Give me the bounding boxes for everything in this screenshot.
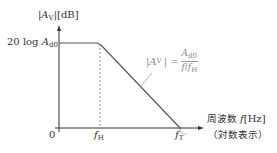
denominator-sub: H [191,66,197,74]
y-axis-label: |AV|[dB] [38,10,79,22]
numerator-sub: d0 [188,52,197,60]
x-title-jp: 周波数 [207,113,240,124]
level-label-prefix: 20 log [7,36,42,47]
level-label-sub: d0 [49,41,58,49]
y-label-abs: |A [38,9,49,20]
x-axis-title: 周波数 f[Hz] [207,114,266,124]
tick-ft-sub: T [179,134,184,142]
x-axis-arrow-icon [198,126,204,130]
x-axis-subtitle: （対数表示） [208,130,268,140]
level-label: 20 log Ad0 [7,37,58,49]
y-axis-arrow-icon [57,25,61,31]
y-label-unit: [dB] [57,9,79,20]
formula-lhs-abs: |A [146,57,157,67]
formula-lhs-close: | = [164,57,179,67]
x-title-unit: [Hz] [244,113,266,124]
formula-denominator: f/fH [181,62,197,74]
formula-numerator: Ad0 [181,49,198,62]
formula-lhs-sub: V [157,58,162,65]
gain-formula: |AV| = Ad0 f/fH [146,49,198,74]
tick-ft: fT [175,130,183,142]
tick-fh: fH [94,130,104,142]
level-label-var: A [42,36,49,47]
formula-fraction: Ad0 f/fH [181,49,198,74]
tick-fh-sub: H [98,134,104,142]
formula-leader-line [141,73,152,86]
origin-label: 0 [49,130,55,140]
